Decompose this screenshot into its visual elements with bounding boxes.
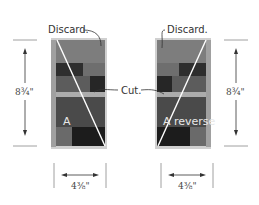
- block-a-reverse-patch: [190, 127, 206, 146]
- block-a-reverse-discard-area: [157, 40, 206, 63]
- block-a: A: [51, 38, 107, 149]
- discard-label-left: Discard.: [48, 24, 89, 35]
- block-a-reverse-patch: [157, 76, 172, 92]
- arrowhead-left-icon: [61, 173, 67, 177]
- block-a-patch: [56, 76, 90, 92]
- block-a-patch: [83, 63, 105, 76]
- width-dimension-left: 4⅜": [54, 163, 106, 191]
- block-a-reverse-patch: [157, 63, 179, 76]
- arrowhead-down-icon: [234, 130, 238, 136]
- height-dimension-left: 8¾": [13, 40, 37, 146]
- block-a-patch: [56, 63, 83, 76]
- cut-label: Cut.: [121, 85, 141, 96]
- width-label-left: 4⅜": [71, 181, 90, 191]
- block-a-discard-area: [56, 40, 105, 63]
- block-a-patch: [56, 127, 72, 146]
- arrowhead-up-icon: [23, 48, 27, 54]
- arrowhead-down-icon: [23, 130, 27, 136]
- block-a-label: A: [63, 115, 71, 128]
- block-a-reverse-edge-strip: [206, 40, 211, 147]
- height-dimension-right: 8¾": [224, 40, 248, 146]
- arrowhead-left-icon: [168, 173, 174, 177]
- height-label-left: 8¾": [15, 87, 34, 97]
- height-label-right: 8¾": [226, 87, 245, 97]
- arrowhead-right-icon: [200, 173, 206, 177]
- discard-label-right: Discard.: [167, 24, 208, 35]
- block-a-reverse: A reverse: [155, 38, 216, 149]
- width-label-right: 4⅜": [178, 181, 197, 191]
- arrowhead-right-icon: [93, 173, 99, 177]
- cutting-diagram: A A reverse Discard. Discard. Cut. 8¾": [0, 0, 259, 205]
- width-dimension-right: 4⅜": [161, 163, 213, 191]
- arrowhead-up-icon: [234, 48, 238, 54]
- block-a-reverse-label: A reverse: [163, 115, 216, 128]
- block-a-edge-strip: [51, 40, 56, 147]
